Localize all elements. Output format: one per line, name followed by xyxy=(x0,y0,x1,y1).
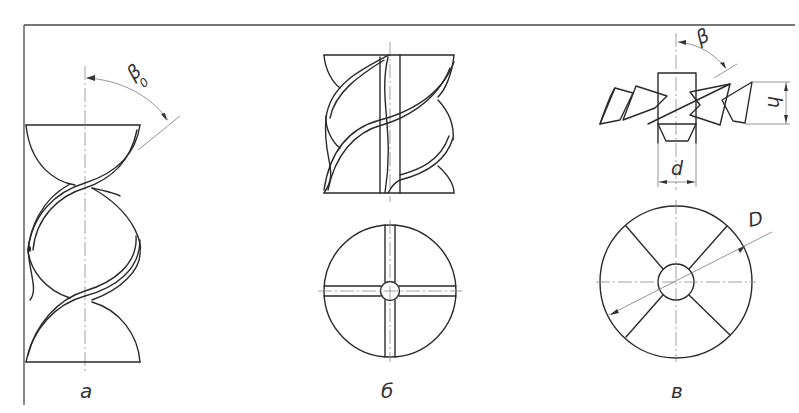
hub xyxy=(658,73,696,143)
dimension-h-label: h xyxy=(764,96,786,108)
panel-a-label: а xyxy=(80,379,92,403)
panel-b-label: б xyxy=(381,379,393,403)
panel-a-helical-mixer: β 0 а xyxy=(26,60,180,403)
technical-drawing: β 0 а xyxy=(0,0,799,413)
blade-right-outer xyxy=(722,82,752,123)
dimension-D-label: D xyxy=(746,206,765,231)
angle-beta0-subscript: 0 xyxy=(137,75,152,91)
panel-b-four-blade-rotor: б xyxy=(318,42,462,403)
blade-left-inner xyxy=(623,86,667,120)
panel-v-label: в xyxy=(671,379,683,403)
panel-v-inclined-blade-impeller: β h d D в xyxy=(596,24,790,403)
dimension-d-label: d xyxy=(671,157,684,179)
